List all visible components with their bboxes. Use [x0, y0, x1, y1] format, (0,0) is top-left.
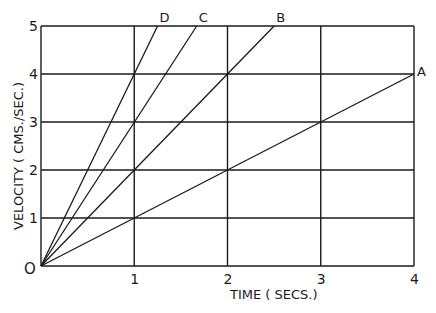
y-axis-label: VELOCITY ( CMS./SEC.): [11, 82, 26, 230]
y-tick-label: 5: [29, 18, 38, 34]
x-tick-label: 3: [317, 271, 326, 287]
y-tick-label: 3: [29, 114, 38, 130]
series-line-b: [41, 26, 274, 266]
series-line-c: [41, 26, 197, 266]
series-label-a: A: [417, 64, 426, 79]
x-tick-label: 1: [130, 271, 139, 287]
x-tick-label: 2: [224, 271, 233, 287]
series-line-d: [41, 26, 158, 266]
y-tick-label: 4: [29, 66, 38, 82]
series-label-d: D: [160, 10, 170, 25]
origin-label: O: [24, 260, 36, 278]
x-axis-label: TIME ( SECS.): [229, 287, 318, 302]
series-label-b: B: [276, 10, 285, 25]
x-tick-label: 4: [410, 271, 419, 287]
series-label-c: C: [199, 10, 208, 25]
velocity-time-chart: 123412345ABCD O TIME ( SECS.) VELOCITY (…: [0, 0, 436, 313]
grid-lines: [41, 26, 414, 266]
y-tick-label: 1: [29, 210, 38, 226]
y-tick-label: 2: [29, 162, 38, 178]
